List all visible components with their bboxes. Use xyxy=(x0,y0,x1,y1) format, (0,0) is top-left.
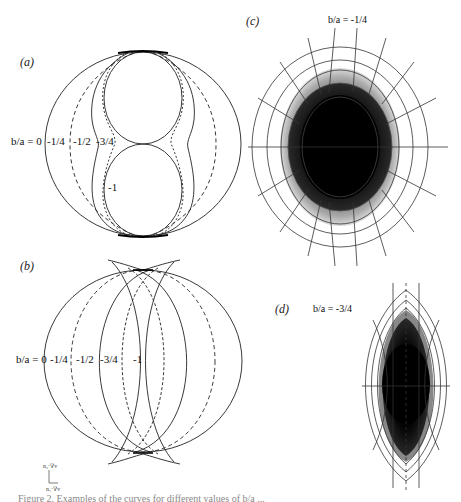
panel-d-drawing xyxy=(362,283,450,490)
panel-b-label-quarter: -1/4 xyxy=(50,354,68,365)
panel-c-drawing xyxy=(248,28,448,266)
panel-c-title: b/a = -1/4 xyxy=(328,15,367,25)
axis-indicator xyxy=(49,470,58,483)
panel-a-label-one: -1 xyxy=(108,182,117,193)
panel-b-label-three-quarter: -3/4 xyxy=(100,354,118,365)
panel-b-tag: (b) xyxy=(20,260,34,272)
panel-a-label-quarter: -1/4 xyxy=(47,136,65,147)
panel-c-tag: (c) xyxy=(246,15,259,27)
panel-b-drawing xyxy=(44,260,242,464)
panel-b-label-prefix: b/a = 0 xyxy=(16,354,47,365)
axis-label-vertical: n₂·∇v xyxy=(43,463,57,469)
panel-b-label-one: -1 xyxy=(133,354,142,365)
panel-b-label-half: -1/2 xyxy=(76,354,94,365)
figure-caption: Figure 2. Examples of the curves for dif… xyxy=(18,494,448,502)
axis-label-horizontal: n₁·∇v xyxy=(46,486,60,492)
panel-a-label-three-quarter: -3/4 xyxy=(96,136,114,147)
panel-a-label-half: -1/2 xyxy=(73,136,91,147)
panel-a-label-prefix: b/a = 0 xyxy=(11,136,42,147)
panel-d-tag: (d) xyxy=(275,303,289,315)
panel-d-title: b/a = -3/4 xyxy=(313,304,352,314)
panel-a-tag: (a) xyxy=(20,56,34,68)
